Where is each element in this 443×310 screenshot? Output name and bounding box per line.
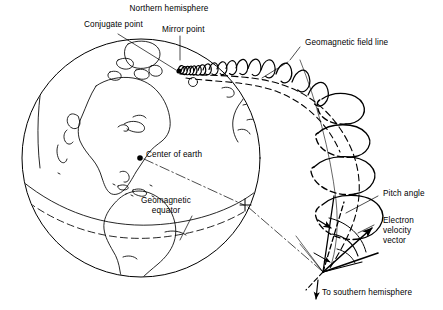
helix-tight-loops [178, 64, 211, 75]
label-geomagnetic-field-line: Geomagnetic field line [305, 38, 388, 48]
leader-geomagnetic-field-line [290, 47, 300, 60]
center-of-earth-dot [137, 155, 143, 161]
leader-field-line-to-helix [262, 62, 288, 78]
helix-large-loops [276, 63, 328, 106]
label-geomagnetic-equator-line1: Geomagnetic [128, 196, 204, 206]
greenland-outline [124, 41, 160, 68]
label-electron-velocity-line3: vector [383, 236, 406, 246]
north-america-outline [78, 77, 170, 194]
label-center-of-earth: Center of earth [146, 150, 202, 160]
figure-canvas: Northern hemisphere Conjugate point Mirr… [0, 0, 443, 310]
label-pitch-angle: Pitch angle [383, 189, 425, 199]
leader-geomagnetic-equator [180, 216, 192, 240]
mirror-point-dot [176, 68, 181, 73]
label-mirror-point: Mirror point [162, 25, 205, 35]
large-helix [311, 93, 383, 239]
label-electron-velocity-line1: Electron [383, 216, 414, 226]
label-conjugate-point: Conjugate point [84, 20, 143, 30]
label-geomagnetic-equator-line2: equator [128, 206, 204, 216]
label-electron-velocity-line2: velocity [383, 226, 411, 236]
leader-pitch-angle [346, 196, 378, 213]
label-northern-hemisphere: Northern hemisphere [114, 4, 224, 14]
label-to-southern-hemisphere: To southern hemisphere [322, 288, 412, 298]
